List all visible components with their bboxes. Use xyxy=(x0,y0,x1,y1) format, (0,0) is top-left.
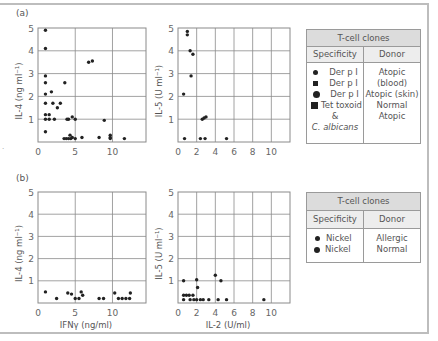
data-point xyxy=(51,102,54,105)
data-point xyxy=(129,291,132,294)
data-point xyxy=(191,53,194,56)
data-point xyxy=(191,294,194,297)
large-circle-marker-icon xyxy=(313,91,320,98)
data-point xyxy=(66,291,69,294)
legend-b-specificity-col: Nickel Nickel xyxy=(307,229,364,262)
legend-a-specificity: Der p I xyxy=(326,89,363,100)
x-axis-label: IL-2 (U/ml) xyxy=(206,320,251,330)
data-point xyxy=(74,137,77,140)
y-tick-label: 5 xyxy=(168,188,174,198)
data-point xyxy=(44,130,47,133)
data-point xyxy=(214,274,217,277)
x-tick-label: 0 xyxy=(35,147,41,157)
data-point xyxy=(203,137,206,140)
legend-b: T-cell clones Specificity Donor Nickel N… xyxy=(306,192,421,263)
y-tick-label: 5 xyxy=(168,24,174,34)
data-point xyxy=(55,297,58,300)
data-point xyxy=(77,297,80,300)
data-point xyxy=(195,298,198,301)
legend-a: T-cell clones Specificity Donor Der p I … xyxy=(306,29,421,144)
data-point xyxy=(182,92,185,95)
data-point xyxy=(74,297,77,300)
data-point xyxy=(189,74,192,77)
data-point xyxy=(97,136,100,139)
legend-b-col-specificity: Specificity xyxy=(307,211,364,228)
data-point xyxy=(67,118,70,121)
x-tick-label: 10 xyxy=(107,308,119,318)
data-point xyxy=(120,297,123,300)
y-axis-label: IL-4 (ng ml⁻¹) xyxy=(14,225,24,282)
data-point xyxy=(188,298,191,301)
data-point xyxy=(216,298,219,301)
legend-b-body: Nickel Nickel Allergic Normal xyxy=(307,229,420,262)
stray-mark: · xyxy=(2,145,4,153)
y-tick-label: 4 xyxy=(168,210,174,220)
data-point xyxy=(182,298,185,301)
x-tick-label: 4 xyxy=(212,308,218,318)
x-tick-label: 2 xyxy=(194,308,200,318)
data-point xyxy=(53,118,56,121)
data-point xyxy=(204,115,207,118)
legend-b-row: Nickel xyxy=(307,244,363,255)
y-tick-label: 2 xyxy=(168,92,174,102)
legend-a-specificity: Der p I xyxy=(324,67,363,78)
y-axis-label: IL-5 (U ml⁻¹) xyxy=(154,65,164,117)
data-point xyxy=(81,294,84,297)
y-tick-label: 3 xyxy=(28,69,34,79)
data-point xyxy=(71,115,74,118)
data-point xyxy=(91,59,94,62)
data-point xyxy=(74,118,77,121)
y-tick-label: 3 xyxy=(168,232,174,242)
data-point xyxy=(199,137,202,140)
data-point xyxy=(188,294,191,297)
y-tick-label: 2 xyxy=(28,92,34,102)
x-tick-label: 10 xyxy=(107,147,119,157)
y-tick-label: 1 xyxy=(168,115,174,125)
data-point xyxy=(44,113,47,116)
data-point xyxy=(113,291,116,294)
small-circle-marker-icon xyxy=(313,70,318,75)
x-tick-label: 10 xyxy=(266,308,278,318)
data-point xyxy=(183,137,186,140)
legend-b-donor: Normal xyxy=(364,244,420,255)
legend-b-specificity: Nickel xyxy=(325,244,351,255)
data-point xyxy=(123,137,126,140)
legend-a-donor: Atopic (skin) xyxy=(364,89,420,100)
data-point xyxy=(182,279,185,282)
x-tick-label: 0 xyxy=(175,147,181,157)
legend-b-col-donor: Donor xyxy=(364,211,420,228)
data-point xyxy=(44,47,47,50)
y-axis-label: IL-4 (ng ml⁻¹) xyxy=(14,63,24,120)
x-tick-label: 4 xyxy=(212,147,218,157)
y-tick-label: 1 xyxy=(168,276,174,286)
legend-a-row: Der p I xyxy=(307,78,363,89)
plot-frame xyxy=(38,28,146,142)
data-point xyxy=(44,92,47,95)
legend-a-col-donor: Donor xyxy=(364,47,420,62)
legend-b-donor: Allergic xyxy=(364,233,420,244)
data-point xyxy=(102,297,105,300)
x-tick-label: 6 xyxy=(231,308,237,318)
data-point xyxy=(44,74,47,77)
legend-a-row: Der p I xyxy=(307,67,363,78)
y-tick-label: 4 xyxy=(168,46,174,56)
data-point xyxy=(103,119,106,122)
data-point xyxy=(128,297,131,300)
legend-b-specificity: Nickel xyxy=(326,233,352,244)
y-tick-label: 3 xyxy=(28,232,34,242)
legend-a-header-row: Specificity Donor xyxy=(307,47,420,63)
data-point xyxy=(87,61,90,64)
data-point xyxy=(80,290,83,293)
small-square-marker-icon xyxy=(313,81,318,86)
x-tick-label: 0 xyxy=(35,308,41,318)
legend-a-row: Tet toxoid xyxy=(307,100,363,111)
y-tick-label: 5 xyxy=(28,24,34,34)
x-tick-label: 10 xyxy=(266,147,278,157)
plot-frame xyxy=(38,192,146,303)
y-tick-label: 4 xyxy=(28,210,34,220)
legend-a-title: T-cell clones xyxy=(307,30,420,47)
data-point xyxy=(59,102,62,105)
data-point xyxy=(186,33,189,36)
legend-a-body: Der p I Der p I Der p I Tet toxoid & C. … xyxy=(307,63,420,143)
data-point xyxy=(196,286,199,289)
